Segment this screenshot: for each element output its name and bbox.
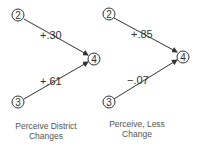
node-4-left: 4 <box>88 53 100 65</box>
svg-text:4: 4 <box>91 54 97 65</box>
coefficient-2-4-left: +.30 <box>40 29 62 41</box>
node-4-right: 4 <box>177 51 189 63</box>
caption-left-line1: Perceive District <box>10 121 82 131</box>
right-panel: 2 4 3 +.85 −.07 <box>103 8 189 108</box>
left-panel: 2 4 3 +.30 +.61 <box>12 9 100 108</box>
svg-text:3: 3 <box>15 97 21 108</box>
caption-right: Perceive, Less Change <box>104 119 170 139</box>
caption-right-line2: Change <box>104 129 170 139</box>
svg-text:3: 3 <box>106 97 112 108</box>
coefficient-3-4-left: +.61 <box>40 75 62 87</box>
node-2-right: 2 <box>103 8 115 20</box>
node-2-left: 2 <box>12 9 24 21</box>
node-3-left: 3 <box>12 96 24 108</box>
svg-text:2: 2 <box>106 9 112 20</box>
caption-right-line1: Perceive, Less <box>104 119 170 129</box>
coefficient-3-4-right: −.07 <box>127 74 149 86</box>
caption-left: Perceive District Changes <box>10 121 82 141</box>
node-3-right: 3 <box>103 96 115 108</box>
coefficient-2-4-right: +.85 <box>131 28 153 40</box>
svg-text:4: 4 <box>180 52 186 63</box>
caption-left-line2: Changes <box>10 131 82 141</box>
svg-text:2: 2 <box>15 10 21 21</box>
